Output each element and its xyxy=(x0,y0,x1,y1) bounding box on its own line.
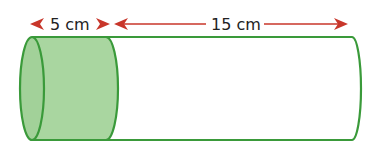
arrowhead-left-5cm xyxy=(30,18,44,30)
left-end-face xyxy=(20,37,44,140)
label-5cm: 5 cm xyxy=(50,15,90,34)
cylinder-diagram: 5 cm 15 cm xyxy=(0,0,374,151)
label-15cm: 15 cm xyxy=(211,15,261,34)
arrowhead-right-5cm xyxy=(96,18,110,30)
right-end-arc xyxy=(352,37,361,140)
